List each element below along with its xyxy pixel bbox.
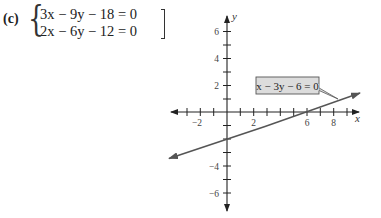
coordinate-graph: −2 2 6 8 6 4 2 −4 −6 x y x − 3y − 6 = 0 [0,0,381,218]
plotted-line [265,93,360,127]
line-label-callout: x − 3y − 6 = 0 [256,77,338,99]
svg-text:6: 6 [305,118,310,128]
svg-text:2: 2 [251,118,256,128]
svg-text:−6: −6 [209,189,219,199]
svg-text:−4: −4 [209,162,219,172]
svg-text:−2: −2 [192,118,202,128]
line-label: x − 3y − 6 = 0 [256,80,319,92]
svg-text:8: 8 [331,118,336,128]
svg-text:2: 2 [214,81,219,91]
svg-text:6: 6 [214,27,219,37]
plotted-line-lower [169,127,265,159]
x-axis-label: x [354,112,360,124]
y-axis-label: y [231,10,237,22]
svg-text:4: 4 [214,54,219,64]
